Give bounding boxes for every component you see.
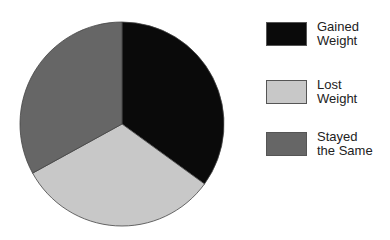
legend-label-line: Weight <box>317 34 390 48</box>
legend-item-gained-weight: Gained Weight <box>266 22 307 46</box>
legend-label-line: the Same <box>317 144 390 158</box>
legend-swatch <box>266 22 307 46</box>
pie-chart <box>0 0 250 240</box>
legend-item-lost-weight: Lost Weight <box>266 80 307 104</box>
legend-label-line: Weight <box>317 92 390 106</box>
legend-label-line: Lost <box>317 78 390 92</box>
legend-label-line: Stayed <box>317 130 390 144</box>
legend-label-line: Gained <box>317 20 390 34</box>
legend-swatch <box>266 80 307 104</box>
legend-label: Gained Weight <box>317 20 390 48</box>
legend-label: Lost Weight <box>317 78 390 106</box>
legend-swatch <box>266 132 307 156</box>
legend-label: Stayed the Same <box>317 130 390 158</box>
legend-item-stayed-the-same: Stayed the Same <box>266 132 307 156</box>
